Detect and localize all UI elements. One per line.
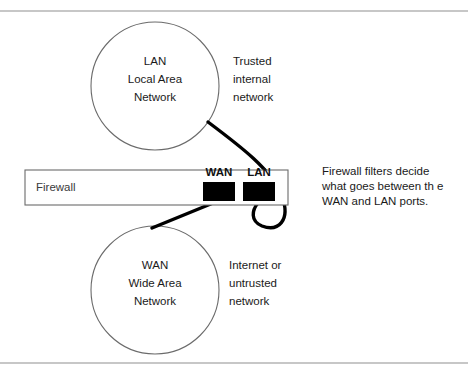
lan-node-line2: Local Area [128, 73, 183, 85]
figure-root: Firewall WAN LAN LAN Local Area Network … [0, 0, 468, 376]
wan-network-circle [91, 226, 219, 354]
lan-node-line1: LAN [144, 55, 166, 67]
wan-node-line1: WAN [142, 259, 168, 271]
wan-port-label: WAN [206, 166, 233, 178]
firewall-caption-line1: Firewall filters decide [322, 165, 429, 177]
wan-caption-line1: Internet or [229, 259, 282, 271]
firewall-caption-line2: what goes between th e [321, 180, 443, 192]
lan-port[interactable] [243, 182, 275, 201]
firewall-label: Firewall [36, 181, 76, 193]
lan-node-line3: Network [134, 91, 176, 103]
wan-node-line2: Wide Area [128, 277, 182, 289]
lan-network-circle [91, 22, 219, 150]
wan-port[interactable] [203, 182, 235, 201]
wan-caption-line2: untrusted [229, 277, 277, 289]
wan-node-line3: Network [134, 295, 176, 307]
lan-caption-line1: Trusted [233, 55, 272, 67]
wan-caption-line3: network [229, 295, 270, 307]
firewall-diagram: Firewall WAN LAN LAN Local Area Network … [0, 0, 468, 376]
lan-caption-line2: internal [233, 73, 271, 85]
firewall-caption-line3: WAN and LAN ports. [322, 195, 428, 207]
lan-caption-line3: network [233, 91, 274, 103]
lan-port-label: LAN [247, 166, 271, 178]
